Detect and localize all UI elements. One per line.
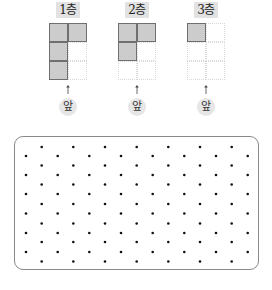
dot xyxy=(25,232,28,235)
dot xyxy=(246,174,249,177)
dot xyxy=(104,146,107,149)
dot xyxy=(167,164,170,167)
dot xyxy=(120,155,123,158)
dot xyxy=(246,155,249,158)
dot xyxy=(104,164,107,167)
dot xyxy=(104,260,107,263)
dot xyxy=(167,241,170,244)
dot xyxy=(56,251,59,254)
dot xyxy=(72,164,75,167)
dot xyxy=(151,174,154,177)
dot xyxy=(72,241,75,244)
dot xyxy=(135,222,138,225)
dot xyxy=(215,174,218,177)
dot xyxy=(40,203,43,206)
dot xyxy=(56,232,59,235)
dot xyxy=(88,232,91,235)
dot xyxy=(104,183,107,186)
dot xyxy=(40,164,43,167)
dot xyxy=(151,232,154,235)
dot xyxy=(56,155,59,158)
dot xyxy=(183,174,186,177)
dot xyxy=(246,193,249,196)
dot xyxy=(199,164,202,167)
dot xyxy=(25,251,28,254)
dot xyxy=(151,155,154,158)
dot xyxy=(135,260,138,263)
dot xyxy=(72,146,75,149)
dot xyxy=(88,155,91,158)
dot xyxy=(230,241,233,244)
dot xyxy=(135,241,138,244)
dot xyxy=(230,260,233,263)
dot xyxy=(151,251,154,254)
dot xyxy=(104,222,107,225)
dot xyxy=(215,232,218,235)
dot xyxy=(120,251,123,254)
dot xyxy=(56,193,59,196)
dot xyxy=(167,222,170,225)
dot xyxy=(120,232,123,235)
dot xyxy=(167,203,170,206)
dot xyxy=(25,174,28,177)
dot xyxy=(72,203,75,206)
dot xyxy=(135,146,138,149)
dot xyxy=(167,146,170,149)
dot xyxy=(40,183,43,186)
dot xyxy=(230,203,233,206)
dot xyxy=(151,193,154,196)
dot xyxy=(230,164,233,167)
dot xyxy=(183,251,186,254)
dot xyxy=(183,155,186,158)
dot-lattice xyxy=(1,1,272,290)
dot xyxy=(40,146,43,149)
dot xyxy=(215,155,218,158)
dot xyxy=(230,183,233,186)
dot xyxy=(40,241,43,244)
dot xyxy=(215,251,218,254)
dot xyxy=(215,212,218,215)
dot xyxy=(199,222,202,225)
dot xyxy=(230,146,233,149)
dot xyxy=(120,212,123,215)
dot xyxy=(120,174,123,177)
dot xyxy=(72,183,75,186)
dot xyxy=(199,146,202,149)
dot xyxy=(25,193,28,196)
isometric-dot-paper[interactable] xyxy=(14,136,259,270)
dot xyxy=(88,212,91,215)
dot xyxy=(167,260,170,263)
dot xyxy=(215,193,218,196)
dot xyxy=(167,183,170,186)
dot xyxy=(72,260,75,263)
dot xyxy=(183,193,186,196)
dot xyxy=(199,183,202,186)
dot xyxy=(199,241,202,244)
dot xyxy=(199,203,202,206)
dot xyxy=(40,260,43,263)
dot xyxy=(104,203,107,206)
dot xyxy=(135,203,138,206)
dot xyxy=(88,193,91,196)
dot xyxy=(120,193,123,196)
dot xyxy=(88,251,91,254)
dot xyxy=(25,155,28,158)
dot xyxy=(40,222,43,225)
dot xyxy=(72,222,75,225)
dot xyxy=(56,174,59,177)
dot xyxy=(183,232,186,235)
dot xyxy=(246,232,249,235)
dot xyxy=(104,241,107,244)
dot xyxy=(25,212,28,215)
dot xyxy=(230,222,233,225)
dot xyxy=(183,212,186,215)
dot xyxy=(88,174,91,177)
dot xyxy=(151,212,154,215)
dot xyxy=(56,212,59,215)
dot xyxy=(135,164,138,167)
dot xyxy=(246,251,249,254)
dot xyxy=(199,260,202,263)
dot xyxy=(135,183,138,186)
dot xyxy=(246,212,249,215)
